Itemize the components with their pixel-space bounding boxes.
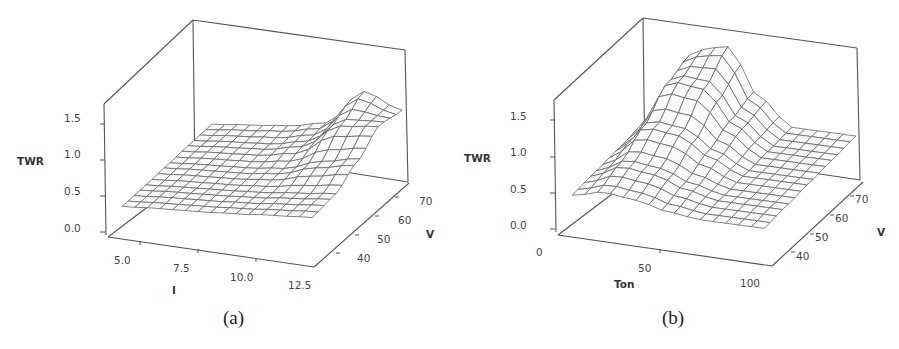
- y-tick-label: 40: [796, 250, 809, 262]
- z-tick-label: 1.5: [64, 112, 81, 124]
- panel-caption-b: (b): [662, 307, 684, 329]
- x-axis-title: I: [172, 284, 176, 296]
- panel-caption-a: (a): [223, 307, 244, 329]
- x-tick-label: 0: [536, 246, 543, 258]
- y-tick-label: 60: [398, 214, 411, 226]
- y-tick-label: 70: [419, 195, 432, 207]
- y-axis-title: V: [426, 228, 435, 240]
- z-tick-label: 1.5: [510, 110, 527, 122]
- y-tick-label: 50: [815, 231, 828, 243]
- y-tick-label: 60: [835, 212, 848, 224]
- surface-plot-a: 1.5 1.0 0.5 0.0 TWR 5.0 7.5 10.0 12.5 I …: [0, 0, 450, 349]
- y-axis-title: V: [877, 226, 886, 238]
- x-tick-label: 50: [638, 262, 651, 274]
- z-tick-label: 0.0: [510, 219, 527, 231]
- y-tick-label: 70: [855, 193, 868, 205]
- z-tick-label: 1.0: [64, 148, 81, 160]
- x-tick-label: 12.5: [288, 279, 311, 291]
- y-tick-label: 40: [357, 252, 370, 264]
- surface-wireframe-b: [572, 47, 856, 229]
- surface-wireframe-a: [122, 91, 402, 217]
- x-tick-label: 5.0: [114, 254, 131, 266]
- z-axis-title: TWR: [464, 152, 491, 164]
- z-tick-label: 1.0: [510, 146, 527, 158]
- z-tick-label: 0.5: [64, 185, 81, 197]
- x-axis-title: Ton: [614, 278, 634, 290]
- y-tick-label: 50: [377, 233, 390, 245]
- z-axis-title: TWR: [17, 155, 44, 167]
- x-tick-label: 100: [740, 277, 760, 289]
- x-tick-label: 7.5: [173, 262, 190, 274]
- z-tick-label: 0.0: [64, 222, 81, 234]
- surface-plot-a-canvas: 1.5 1.0 0.5 0.0 TWR 5.0 7.5 10.0 12.5 I …: [0, 0, 450, 349]
- surface-plot-b: 1.5 1.0 0.5 0.0 TWR 0 50 100 Ton 40 50 6…: [450, 0, 899, 349]
- surface-plot-b-canvas: 1.5 1.0 0.5 0.0 TWR 0 50 100 Ton 40 50 6…: [450, 0, 899, 349]
- x-tick-label: 10.0: [230, 271, 253, 283]
- z-tick-label: 0.5: [510, 183, 527, 195]
